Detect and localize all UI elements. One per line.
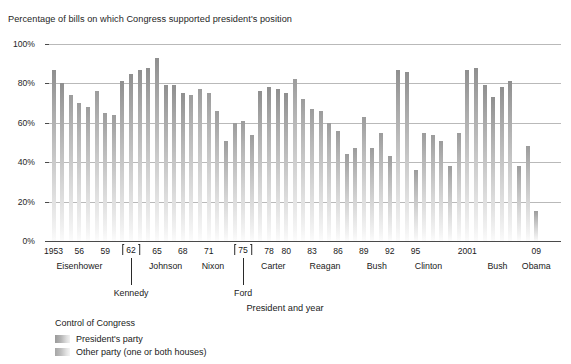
x-axis-year-1983: 83 bbox=[307, 246, 317, 256]
x-axis-year-1968: 68 bbox=[178, 246, 188, 256]
x-axis-year-1986: 86 bbox=[333, 246, 343, 256]
bar-2004[interactable] bbox=[491, 97, 495, 241]
x-axis-year-1965: 65 bbox=[152, 246, 162, 256]
bars-layer bbox=[49, 44, 561, 241]
president-label-bush-2005: Bush bbox=[487, 261, 507, 271]
x-axis-year-1975: 75 bbox=[234, 245, 252, 255]
president-label-reagan-1985: Reagan bbox=[310, 261, 341, 271]
president-label-bush-1991: Bush bbox=[367, 261, 387, 271]
bar-1957[interactable] bbox=[86, 107, 90, 241]
chart-legend: Control of Congress President's partyOth… bbox=[55, 318, 207, 360]
bar-1954[interactable] bbox=[60, 83, 64, 241]
x-axis-title: President and year bbox=[246, 303, 323, 313]
bar-1977[interactable] bbox=[258, 91, 262, 241]
bar-1993[interactable] bbox=[396, 70, 400, 241]
bar-1959[interactable] bbox=[103, 113, 107, 241]
president-label-eisenhower-1956: Eisenhower bbox=[56, 261, 102, 271]
bar-1991[interactable] bbox=[379, 133, 383, 241]
president-label-obama-2009: Obama bbox=[522, 261, 551, 271]
bar-1963[interactable] bbox=[138, 70, 142, 241]
bar-1992[interactable] bbox=[388, 156, 392, 241]
bar-1982[interactable] bbox=[301, 99, 305, 241]
bar-1997[interactable] bbox=[431, 135, 435, 241]
bar-2000[interactable] bbox=[457, 133, 461, 241]
president-label-kennedy-1962: Kennedy bbox=[114, 288, 149, 298]
bar-2001[interactable] bbox=[465, 70, 469, 241]
bar-1966[interactable] bbox=[164, 85, 168, 241]
bar-1972[interactable] bbox=[215, 111, 219, 241]
bar-1995[interactable] bbox=[414, 170, 418, 241]
bar-1980[interactable] bbox=[284, 93, 288, 241]
bar-2009[interactable] bbox=[534, 211, 538, 241]
bar-2006[interactable] bbox=[508, 81, 512, 241]
bar-1979[interactable] bbox=[276, 89, 280, 241]
president-label-carter-1979: Carter bbox=[261, 261, 285, 271]
bar-1985[interactable] bbox=[327, 123, 331, 241]
x-axis-year-2009: 09 bbox=[531, 246, 541, 256]
bar-1962[interactable] bbox=[129, 74, 133, 241]
bar-1984[interactable] bbox=[319, 111, 323, 241]
y-axis-tick-label: 20% bbox=[0, 197, 35, 207]
y-axis-tick-label: 0% bbox=[0, 236, 35, 246]
bar-1998[interactable] bbox=[439, 141, 443, 241]
legend-swatch-party-other bbox=[55, 348, 70, 356]
bar-1994[interactable] bbox=[405, 72, 409, 241]
bar-1999[interactable] bbox=[448, 166, 452, 241]
bar-2005[interactable] bbox=[500, 87, 504, 241]
bar-1978[interactable] bbox=[267, 87, 271, 241]
bar-1987[interactable] bbox=[345, 154, 349, 241]
x-axis-year-1962: 62 bbox=[122, 245, 140, 255]
bar-2002[interactable] bbox=[474, 68, 478, 241]
bar-1986[interactable] bbox=[336, 131, 340, 241]
bar-2007[interactable] bbox=[517, 166, 521, 241]
bar-1990[interactable] bbox=[370, 148, 374, 241]
bar-2003[interactable] bbox=[483, 85, 487, 241]
bar-1981[interactable] bbox=[293, 79, 297, 241]
president-drop-line-ford bbox=[243, 258, 244, 285]
x-axis-year-1978: 78 bbox=[264, 246, 274, 256]
bar-1974[interactable] bbox=[233, 123, 237, 241]
legend-rows: President's partyOther party (one or bot… bbox=[55, 334, 207, 357]
bar-1964[interactable] bbox=[146, 68, 150, 241]
y-axis-tick-label: 100% bbox=[0, 39, 35, 49]
bar-1970[interactable] bbox=[198, 89, 202, 241]
x-axis-year-1989: 89 bbox=[359, 246, 369, 256]
bar-1968[interactable] bbox=[181, 93, 185, 241]
legend-item-party-other: Other party (one or both houses) bbox=[55, 347, 207, 357]
x-axis-year-1953: 1953 bbox=[44, 246, 63, 256]
x-axis-baseline bbox=[49, 241, 561, 242]
bar-1961[interactable] bbox=[120, 81, 124, 241]
bar-2008[interactable] bbox=[526, 146, 530, 241]
bar-1989[interactable] bbox=[362, 117, 366, 241]
y-axis-tick-label: 40% bbox=[0, 157, 35, 167]
x-axis-year-1995: 95 bbox=[411, 246, 421, 256]
x-axis-year-1959: 59 bbox=[100, 246, 110, 256]
bar-1953[interactable] bbox=[52, 70, 56, 241]
bar-1975[interactable] bbox=[241, 121, 245, 241]
bar-1988[interactable] bbox=[353, 148, 357, 241]
president-label-ford-1975: Ford bbox=[234, 288, 252, 298]
president-label-johnson-1966: Johnson bbox=[149, 261, 182, 271]
bar-1965[interactable] bbox=[155, 58, 159, 241]
legend-swatch-party-own bbox=[55, 335, 70, 343]
president-drop-line-kennedy bbox=[131, 258, 132, 285]
bar-1955[interactable] bbox=[69, 95, 73, 241]
president-label-clinton-1997: Clinton bbox=[415, 261, 442, 271]
bar-1960[interactable] bbox=[112, 115, 116, 241]
y-axis-tick-label: 80% bbox=[0, 78, 35, 88]
bar-1971[interactable] bbox=[207, 93, 211, 241]
x-axis-year-2001: 2001 bbox=[458, 246, 477, 256]
bar-1969[interactable] bbox=[189, 95, 193, 241]
bar-1958[interactable] bbox=[95, 91, 99, 241]
bar-1983[interactable] bbox=[310, 109, 314, 241]
bar-1976[interactable] bbox=[250, 135, 254, 241]
bar-1973[interactable] bbox=[224, 141, 228, 241]
president-label-nixon-1972: Nixon bbox=[202, 261, 225, 271]
chart-title: Percentage of bills on which Congress su… bbox=[8, 14, 292, 24]
x-axis-year-1956: 56 bbox=[75, 246, 85, 256]
bar-1967[interactable] bbox=[172, 85, 176, 241]
x-axis-year-1971: 71 bbox=[204, 246, 214, 256]
bar-1956[interactable] bbox=[77, 103, 81, 241]
x-axis-year-1992: 92 bbox=[385, 246, 395, 256]
bar-1996[interactable] bbox=[422, 133, 426, 241]
